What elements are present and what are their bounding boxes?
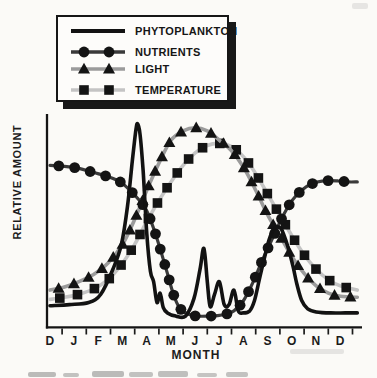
circle-marker — [79, 47, 90, 58]
square-marker — [153, 198, 163, 208]
circle-marker — [100, 170, 111, 181]
x-tick-label: M — [166, 334, 177, 348]
x-tick-label: F — [94, 334, 102, 348]
square-marker — [73, 290, 83, 300]
circle-marker — [155, 244, 166, 255]
square-marker — [325, 276, 335, 286]
triangle-marker — [130, 209, 142, 220]
x-tick-label: D — [45, 334, 54, 348]
square-marker — [254, 173, 264, 183]
circle-marker — [294, 187, 305, 198]
circle-marker — [307, 178, 318, 189]
circle-marker — [115, 177, 126, 188]
circle-marker — [243, 286, 254, 297]
circle-marker — [164, 274, 175, 285]
legend-item-phytoplankton: PHYTOPLANKTON — [69, 23, 238, 39]
nutrients-circle-line-sample — [69, 44, 127, 60]
square-marker — [90, 284, 100, 294]
legend-label-temperature: TEMPERATURE — [135, 84, 221, 96]
circle-marker — [53, 160, 64, 171]
square-marker — [272, 204, 282, 214]
square-marker — [341, 283, 351, 293]
square-marker — [55, 293, 65, 303]
square-marker — [172, 168, 182, 178]
square-marker — [104, 85, 114, 95]
square-marker — [263, 189, 273, 199]
phytoplankton-line-sample — [69, 23, 127, 39]
x-tick-label: J — [192, 334, 199, 348]
square-marker — [198, 143, 208, 153]
circle-marker — [168, 290, 179, 301]
temperature-square-line-sample — [69, 82, 127, 98]
x-tick-label: N — [312, 334, 321, 348]
y-axis-label: RELATIVE AMOUNT — [11, 125, 23, 240]
circle-marker — [190, 310, 201, 321]
x-tick-label: A — [142, 334, 151, 348]
x-tick-label: J — [216, 334, 223, 348]
legend-item-light: LIGHT — [69, 61, 170, 77]
x-tick-label: O — [287, 334, 297, 348]
x-tick-label: M — [117, 334, 128, 348]
circle-marker — [150, 228, 161, 239]
temperature-curve — [50, 143, 357, 299]
square-marker — [79, 85, 89, 95]
legend-label-light: LIGHT — [135, 63, 170, 75]
circle-marker — [85, 166, 96, 177]
circle-marker — [104, 47, 115, 58]
circle-marker — [323, 175, 334, 186]
circle-marker — [206, 311, 217, 322]
circle-marker — [222, 308, 233, 319]
square-marker — [300, 250, 310, 260]
circle-marker — [339, 176, 350, 187]
x-axis-label: MONTH — [172, 348, 221, 362]
legend-label-phytoplankton: PHYTOPLANKTON — [135, 25, 238, 37]
x-tick-label: D — [336, 334, 345, 348]
seasonal-cycle-figure: DJFMAMJJASOND RELATIVE AMOUNT MONTH PHYT… — [0, 0, 377, 378]
square-marker — [126, 245, 136, 255]
circle-marker — [284, 199, 295, 210]
legend: PHYTOPLANKTON NUTRIENTS LIGHT TEMPERATUR… — [56, 15, 229, 102]
circle-marker — [69, 162, 80, 173]
legend-item-nutrients: NUTRIENTS — [69, 44, 201, 60]
legend-label-nutrients: NUTRIENTS — [135, 46, 201, 58]
square-marker — [135, 230, 145, 240]
square-marker — [184, 154, 194, 164]
triangle-marker — [149, 165, 161, 176]
x-tick-label: S — [264, 334, 273, 348]
legend-item-temperature: TEMPERATURE — [69, 82, 221, 98]
square-marker — [311, 264, 321, 274]
circle-marker — [159, 259, 170, 270]
circle-marker — [276, 213, 287, 224]
square-marker — [290, 235, 300, 245]
square-marker — [162, 183, 172, 193]
x-tick-label: A — [239, 334, 248, 348]
circle-marker — [175, 304, 186, 315]
x-tick-label: J — [71, 334, 78, 348]
light-triangle-line-sample — [69, 61, 127, 77]
